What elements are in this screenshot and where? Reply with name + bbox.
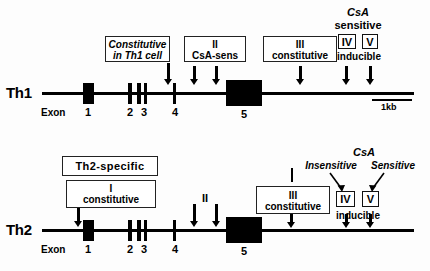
th2-exon-num-1: 1	[80, 243, 96, 255]
th1-region-IV-tag: IV	[338, 34, 356, 49]
th2-arrow-2	[190, 204, 199, 227]
th1-arrow-2	[190, 66, 199, 85]
th1-sensitive-label: sensitive	[330, 19, 386, 31]
th2-region-III-box: III constitutive	[256, 186, 330, 214]
th2-specific-box: Th2-specific	[62, 156, 158, 176]
th1-arrow-5	[342, 66, 351, 85]
th1-region-III-line2: constitutive	[264, 50, 336, 61]
th1-exon-num-5: 5	[236, 108, 252, 120]
th1-exon-5	[226, 80, 262, 106]
th1-row-label: Th1	[6, 84, 32, 101]
th2-csa-label: CsA	[344, 146, 384, 158]
th1-exon-word: Exon	[41, 107, 65, 118]
th2-exon-num-3: 3	[136, 243, 152, 255]
th1-arrow-3	[212, 66, 221, 85]
th2-inducible-label: inducible	[327, 210, 389, 221]
th2-exon-4	[173, 220, 176, 241]
th1-arrow-4	[296, 66, 305, 85]
th1-exon-num-4: 4	[167, 106, 183, 118]
th2-exon-5	[226, 217, 262, 243]
th2-arrow-1	[74, 208, 83, 227]
th2-region-I-box: I constitutive	[66, 180, 156, 208]
th1-region-V-tag: V	[362, 34, 378, 49]
th1-exon-2	[128, 83, 132, 104]
th1-scale-label: 1kb	[381, 102, 397, 112]
th2-exon-3b	[144, 220, 147, 241]
th2-row-label: Th2	[6, 221, 32, 238]
th2-region-IV-tag: IV	[336, 191, 355, 207]
th2-exon-2	[128, 220, 132, 241]
th2-insensitive-label: Insensitive	[300, 160, 362, 171]
th1-arrow-1	[164, 63, 173, 85]
th2-region-I-line2: constitutive	[67, 194, 155, 205]
th2-specific-label: Th2-specific	[63, 160, 157, 172]
th1-exon-4	[173, 83, 176, 104]
th1-region-II-line2: CsA-sens	[185, 50, 245, 61]
th1-region-II-line1: II	[185, 39, 245, 50]
th2-region-I-line1: I	[67, 183, 155, 194]
th1-exon-1	[83, 83, 94, 104]
th1-inducible-label: inducible	[329, 51, 389, 62]
th1-region-I-line2: in Th1 cell	[106, 50, 169, 61]
th1-exon-3	[137, 83, 141, 104]
th2-arrow-3	[212, 204, 221, 227]
th1-exon-num-3: 3	[136, 106, 152, 118]
th2-region-III-tick	[291, 168, 293, 182]
th2-sensitive-label: Sensitive	[365, 160, 421, 171]
th2-exon-3	[137, 220, 141, 241]
th2-arrow-6	[366, 214, 375, 228]
th2-arrow-4	[287, 214, 296, 228]
th2-panel: Th2-specific I constitutive II III const…	[0, 132, 430, 271]
th2-exon-word: Exon	[41, 244, 65, 255]
th2-exon-num-4: 4	[167, 243, 183, 255]
th1-arrow-6	[366, 66, 375, 85]
th1-exon-3b	[144, 83, 147, 104]
th1-scale-bar	[372, 99, 412, 101]
th1-csa-label: CsA	[336, 6, 380, 18]
th2-region-III-line2: constitutive	[257, 201, 329, 212]
th2-region-III-line1: III	[257, 190, 329, 201]
th1-exon-num-1: 1	[80, 106, 96, 118]
th1-region-III-line1: III	[264, 39, 336, 50]
th1-region-I-line1: Constitutive	[106, 39, 169, 50]
th1-panel: Constitutive in Th1 cell II CsA-sens III…	[0, 0, 430, 132]
th1-region-II-box: II CsA-sens	[184, 36, 246, 62]
th2-region-V-tag: V	[362, 191, 379, 207]
th2-exon-num-5: 5	[236, 245, 252, 257]
th2-arrow-5	[342, 214, 351, 228]
th2-region-II-label: II	[196, 192, 214, 204]
th2-exon-1	[83, 220, 94, 241]
th1-region-I-box: Constitutive in Th1 cell	[105, 36, 170, 62]
th1-region-III-box: III constitutive	[263, 36, 337, 62]
